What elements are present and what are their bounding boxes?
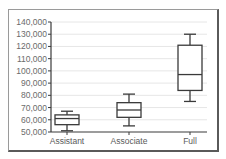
y-tick-label: 90,000 <box>21 78 47 88</box>
y-tick-label: 140,000 <box>16 17 47 27</box>
iqr-box <box>178 45 202 90</box>
y-tick-label: 80,000 <box>21 90 47 100</box>
x-category-label: Assistant <box>50 136 85 146</box>
y-tick-label: 60,000 <box>21 115 47 125</box>
y-tick-label: 50,000 <box>21 127 47 137</box>
box-assistant <box>55 111 79 131</box>
x-category-label: Full <box>183 136 197 146</box>
box-full <box>178 34 202 101</box>
box-series <box>55 34 202 131</box>
y-axis: 50,00060,00070,00080,00090,000100,000110… <box>16 17 51 137</box>
y-tick-label: 110,000 <box>17 54 47 64</box>
box-associate <box>117 94 141 126</box>
y-tick-label: 120,000 <box>16 41 47 51</box>
iqr-box <box>55 115 79 125</box>
x-category-label: Associate <box>111 136 148 146</box>
y-tick-label: 100,000 <box>16 66 47 76</box>
x-axis: AssistantAssociateFull <box>50 132 207 146</box>
box-plot-chart: 50,00060,00070,00080,00090,000100,000110… <box>0 0 226 159</box>
y-tick-label: 70,000 <box>21 103 47 113</box>
y-tick-label: 130,000 <box>16 29 47 39</box>
